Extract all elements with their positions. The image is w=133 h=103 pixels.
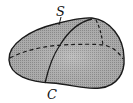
surface-shading bbox=[9, 18, 124, 89]
surface-diagram: S C bbox=[0, 0, 133, 103]
surface-label: S bbox=[56, 4, 65, 19]
curve-label: C bbox=[47, 87, 57, 102]
